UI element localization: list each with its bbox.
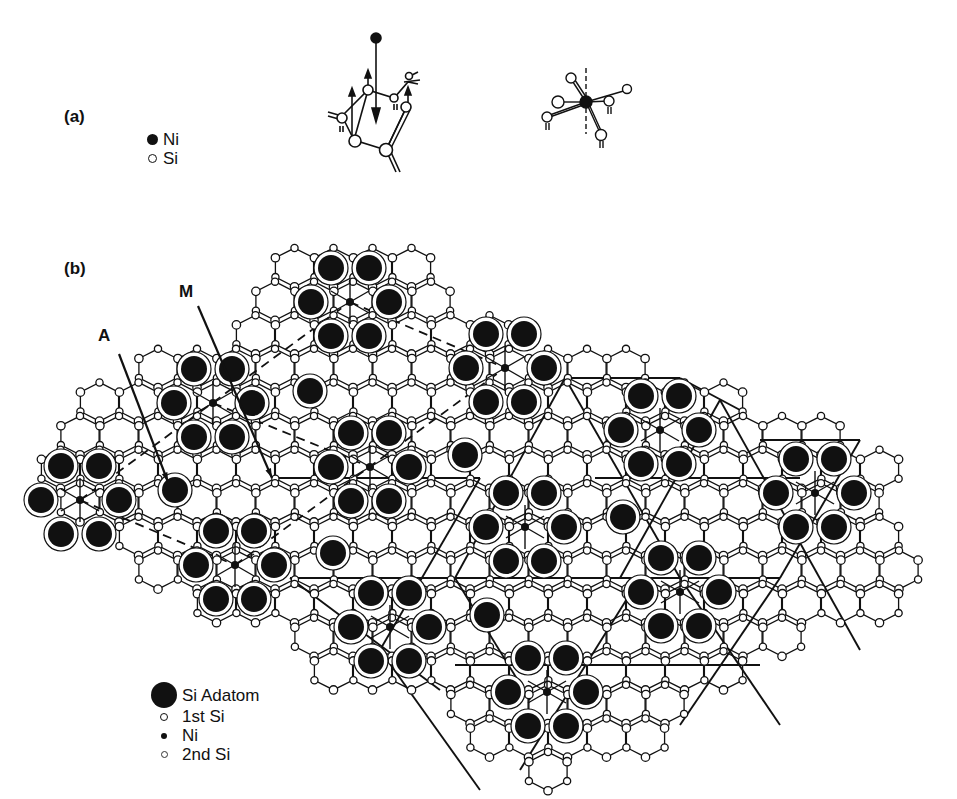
legend-text: 2nd Si	[182, 745, 230, 764]
legend-text: Ni	[182, 726, 198, 745]
ni-site-cluster	[604, 379, 716, 481]
legend-text: Si Adatom	[182, 686, 260, 705]
si-adatom	[320, 540, 346, 566]
legend-text: 1st Si	[182, 707, 225, 726]
first-si-icon	[160, 713, 168, 721]
ni-site-cluster	[449, 317, 561, 419]
si-adatom	[610, 504, 636, 530]
ni-si-reconstruction-lattice	[0, 0, 957, 799]
si-adatom	[474, 602, 500, 628]
si-adatom-icon	[151, 682, 177, 708]
second-si-icon	[161, 751, 168, 758]
legend-item-second-si: 2nd Si	[150, 745, 260, 764]
ni-site-cluster	[294, 251, 406, 353]
marker-m-label: M	[179, 282, 193, 302]
si-adatom-clusters	[24, 251, 871, 743]
si-adatom	[297, 378, 323, 404]
si-adatom	[452, 442, 478, 468]
ni-icon	[161, 733, 167, 739]
ni-site-cluster	[314, 416, 426, 518]
ni-site-cluster	[157, 352, 269, 454]
legend-item-ni: Ni	[150, 726, 260, 745]
legend-item-first-si: 1st Si	[150, 707, 260, 726]
marker-a-label: A	[98, 326, 110, 346]
legend-item-si-adatom: Si Adatom	[150, 683, 260, 707]
panel-b-legend: Si Adatom 1st Si Ni 2nd Si	[150, 683, 260, 764]
si-adatom	[162, 477, 188, 503]
